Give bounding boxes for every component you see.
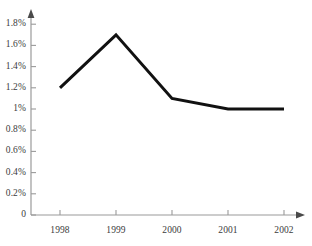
y-tick-label: 0 bbox=[0, 210, 26, 220]
x-tick-label: 2000 bbox=[162, 226, 181, 236]
x-tick-label: 2002 bbox=[274, 226, 293, 236]
x-axis-arrow-icon bbox=[296, 212, 305, 219]
x-tick-label: 2001 bbox=[218, 226, 237, 236]
y-tick-label: 1.4% bbox=[0, 62, 26, 72]
y-ticks-group bbox=[31, 24, 36, 215]
y-tick-label: 1.6% bbox=[0, 41, 26, 51]
y-axis-arrow-icon bbox=[28, 9, 35, 18]
chart-canvas bbox=[0, 0, 312, 246]
y-tick-label: 1% bbox=[0, 104, 26, 114]
x-ticks-group bbox=[60, 210, 284, 215]
y-tick-label: 0.6% bbox=[0, 147, 26, 157]
line-chart: 0 0.2% 0.4% 0.6% 0.8% 1% 1.2% 1.4% 1.6% … bbox=[0, 0, 312, 246]
axes-group bbox=[28, 9, 305, 218]
x-tick-label: 1999 bbox=[106, 226, 125, 236]
y-tick-label: 1.2% bbox=[0, 83, 26, 93]
x-tick-label: 1998 bbox=[50, 226, 69, 236]
y-tick-label: 0.4% bbox=[0, 168, 26, 178]
y-tick-label: 0.2% bbox=[0, 189, 26, 199]
data-series-line bbox=[60, 35, 284, 109]
y-tick-label: 0.8% bbox=[0, 125, 26, 135]
y-tick-label: 1.8% bbox=[0, 19, 26, 29]
